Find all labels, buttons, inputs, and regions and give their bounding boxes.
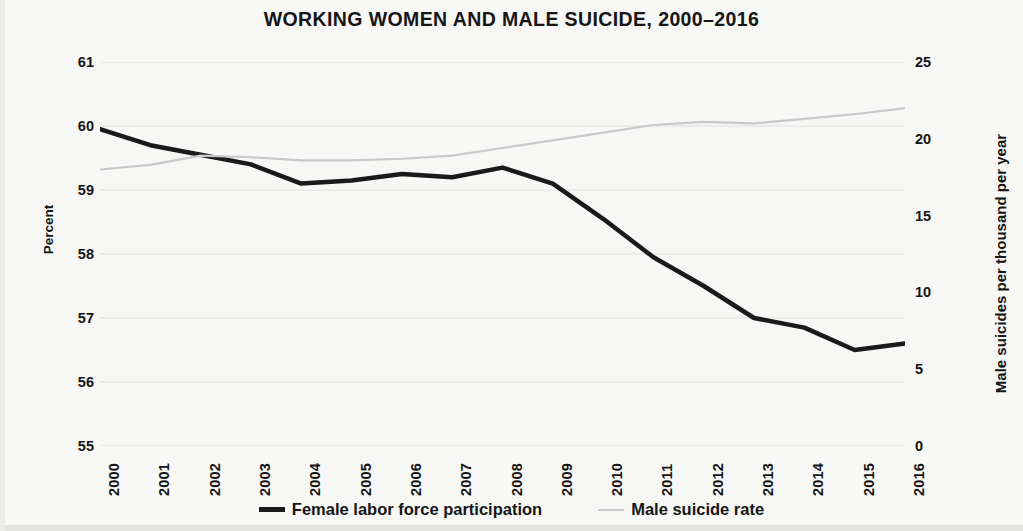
legend-line-icon-black [259,507,285,512]
chart-figure: WORKING WOMEN AND MALE SUICIDE, 2000–201… [0,0,1023,531]
plot-area [100,62,905,446]
chart-legend: Female labor force participation Male su… [0,500,1023,519]
y-axis-left-tick-label: 55 [78,438,94,454]
legend-item-male-suicide-rate: Male suicide rate [598,500,764,519]
page-edge-left [0,0,5,531]
x-axis-tick-label: 2000 [106,463,122,496]
series-line [100,129,905,350]
x-axis-tick-label: 2005 [358,463,374,496]
x-axis-tick-label: 2015 [861,463,877,496]
legend-line-icon-gray [598,509,624,511]
y-axis-right-tick-label: 25 [915,54,931,70]
legend-label-1: Male suicide rate [631,500,764,519]
y-axis-left-tick-label: 59 [78,182,94,198]
y-axis-left-tick-label: 57 [78,310,94,326]
page-edge-bottom [0,525,1023,531]
x-axis-tick-label: 2013 [760,463,776,496]
x-axis-tick-label: 2003 [257,463,273,496]
right-y-axis-ticks: 0510152025 [915,62,953,446]
y-axis-right-tick-label: 5 [915,361,923,377]
left-y-axis-ticks: 55565758596061 [52,62,94,446]
series-plot [100,62,905,446]
x-axis-tick-label: 2014 [810,463,826,496]
y-axis-right-tick-label: 0 [915,438,923,454]
x-axis-tick-label: 2010 [609,463,625,496]
right-y-axis-title: Male suicides per thousand per year [992,119,1009,409]
x-axis-tick-label: 2016 [911,463,927,496]
x-axis-tick-label: 2009 [559,463,575,496]
series-lines [100,108,905,350]
y-axis-right-tick-label: 20 [915,131,931,147]
chart-title: WORKING WOMEN AND MALE SUICIDE, 2000–201… [0,8,1023,31]
left-y-axis-title: Percent [41,170,56,290]
legend-label-0: Female labor force participation [292,500,542,519]
x-axis-tick-label: 2007 [458,463,474,496]
x-axis-tick-label: 2001 [156,463,172,496]
x-axis-tick-label: 2004 [307,463,323,496]
x-axis-tick-label: 2012 [710,463,726,496]
y-axis-left-tick-label: 56 [78,374,94,390]
y-axis-left-tick-label: 61 [78,54,94,70]
x-axis-tick-label: 2008 [509,463,525,496]
x-axis-ticks: 2000200120022003200420052006200720082009… [100,450,905,500]
x-axis-tick-label: 2011 [659,464,675,496]
y-axis-left-tick-label: 60 [78,118,94,134]
y-axis-right-tick-label: 10 [915,284,931,300]
x-axis-tick-label: 2002 [207,463,223,496]
y-axis-left-tick-label: 58 [78,246,94,262]
y-axis-right-tick-label: 15 [915,208,931,224]
x-axis-tick-label: 2006 [408,463,424,496]
legend-item-female-labor-force-participation: Female labor force participation [259,500,542,519]
